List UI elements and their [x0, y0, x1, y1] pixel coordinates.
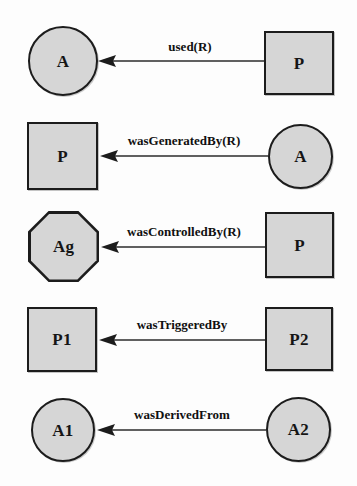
node-artifact-a2: A2	[266, 397, 331, 462]
edge-label-wastriggeredby: wasTriggeredBy	[115, 318, 249, 331]
node-process-p: P	[265, 212, 334, 278]
node-label: A2	[288, 421, 309, 438]
relation-row-wasderivedfrom: A1 wasDerivedFrom A2	[0, 385, 357, 486]
edge-label-wasderivedfrom: wasDerivedFrom	[114, 408, 250, 421]
relation-row-used: A used(R) P	[0, 0, 357, 110]
node-label: P	[294, 237, 305, 254]
node-process-p: P	[264, 31, 334, 95]
edge-label-used: used(R)	[135, 40, 245, 53]
relation-row-wasgeneratedby: P wasGeneratedBy(R) A	[0, 110, 357, 205]
relation-row-wascontrolledby: Ag wasControlledBy(R) P	[0, 200, 357, 300]
provenance-legend-diagram: A used(R) P P wasGeneratedBy(R) A Ag	[0, 0, 357, 486]
node-process-p2: P2	[265, 307, 333, 371]
node-label: P	[294, 55, 305, 72]
edge-label-wascontrolledby: wasControlledBy(R)	[106, 225, 262, 238]
node-label: A	[294, 148, 307, 165]
node-label: P2	[289, 331, 308, 348]
edge-label-wasgeneratedby: wasGeneratedBy(R)	[108, 134, 260, 147]
node-activity-a: A	[268, 124, 333, 189]
relation-row-wastriggeredby: P1 wasTriggeredBy P2	[0, 295, 357, 390]
